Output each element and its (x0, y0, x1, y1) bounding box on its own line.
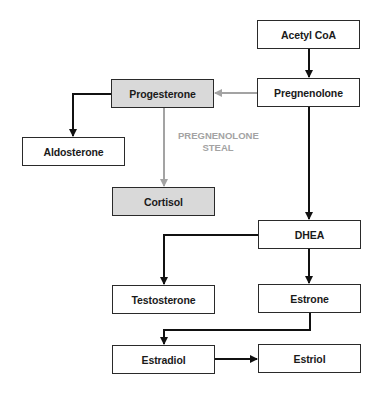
node-label: Estradiol (141, 354, 185, 366)
node-label: Aldosterone (43, 146, 103, 158)
node-label: Estriol (294, 353, 326, 365)
pathway-diagram: Acetyl CoA Pregnenolone Progesterone Ald… (0, 0, 381, 393)
arrow-estrone-estradiol (164, 313, 310, 344)
node-label: DHEA (295, 229, 324, 241)
pregnenolone-steal-label: PREGNENOLONE STEAL (178, 130, 258, 154)
arrow-progesterone-aldosterone (73, 94, 111, 136)
node-estriol: Estriol (258, 344, 361, 373)
node-estradiol: Estradiol (112, 345, 215, 374)
node-label: Testosterone (132, 294, 196, 306)
node-dhea: DHEA (258, 220, 361, 249)
node-acetyl-coa: Acetyl CoA (257, 20, 360, 49)
node-estrone: Estrone (258, 284, 361, 313)
node-pregnenolone: Pregnenolone (257, 78, 360, 107)
node-label: Pregnenolone (274, 87, 343, 99)
node-progesterone: Progesterone (111, 79, 214, 108)
node-aldosterone: Aldosterone (22, 137, 125, 166)
steal-label-line2: STEAL (178, 142, 258, 154)
node-label: Acetyl CoA (281, 29, 336, 41)
node-testosterone: Testosterone (112, 285, 215, 314)
node-label: Cortisol (144, 196, 183, 208)
node-label: Progesterone (129, 88, 196, 100)
steal-label-line1: PREGNENOLONE (178, 130, 258, 142)
arrow-dhea-testosterone (164, 235, 258, 284)
node-label: Estrone (290, 293, 328, 305)
node-cortisol: Cortisol (112, 187, 215, 216)
